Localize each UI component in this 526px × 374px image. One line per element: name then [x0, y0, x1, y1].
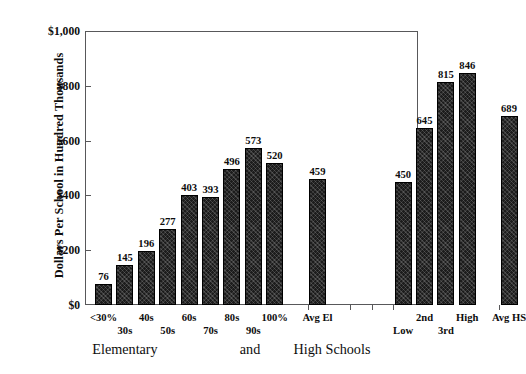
bar-value-label: 196	[138, 238, 154, 249]
y-tick-label: $800	[24, 79, 80, 92]
bar	[95, 284, 112, 305]
x-category-label: Avg El	[302, 312, 332, 323]
bar	[395, 182, 412, 305]
bar-value-label: 520	[267, 150, 283, 161]
x-tick-mark	[499, 305, 500, 310]
bar	[309, 179, 326, 305]
y-tick-mark	[85, 86, 91, 87]
bar-value-label: 450	[395, 169, 411, 180]
bar-value-label: 459	[310, 166, 326, 177]
x-tick-mark	[350, 305, 351, 310]
group-label-and: and	[240, 341, 261, 358]
bar	[138, 251, 155, 305]
x-tick-mark	[308, 305, 309, 310]
bar	[223, 169, 240, 305]
bar	[245, 148, 262, 305]
bar	[159, 229, 176, 305]
bar-value-label: 846	[459, 60, 475, 71]
bar	[459, 73, 476, 305]
y-tick-mark	[85, 141, 91, 142]
group-label-high-schools: High Schools	[294, 341, 371, 358]
x-category-label: High	[456, 312, 478, 323]
bar-value-label: 573	[245, 135, 261, 146]
y-tick-label: $400	[24, 189, 80, 202]
bar	[416, 128, 433, 305]
bar	[266, 163, 283, 305]
bar-value-label: 689	[501, 103, 517, 114]
x-category-label: 60s	[182, 312, 197, 323]
bar	[116, 265, 133, 305]
bar-value-label: 645	[417, 115, 433, 126]
x-category-label: 3rd	[438, 325, 454, 336]
bar-value-label: 76	[98, 271, 109, 282]
x-category-label: 70s	[203, 325, 218, 336]
group-label-elementary: Elementary	[92, 341, 157, 358]
y-tick-mark	[85, 250, 91, 251]
bar	[202, 197, 219, 305]
bar-value-label: 145	[117, 252, 133, 263]
y-axis-title: Dollars Per School in Hundred Thousands	[52, 21, 67, 311]
x-tick-mark	[372, 305, 373, 310]
x-category-label: 80s	[225, 312, 240, 323]
bar-value-label: 393	[203, 184, 219, 195]
bar-value-label: 815	[438, 69, 454, 80]
x-tick-mark	[393, 305, 394, 310]
bar-value-label: 496	[224, 156, 240, 167]
x-category-label: <30%	[90, 312, 117, 323]
y-tick-label: $600	[24, 134, 80, 147]
x-category-label: 50s	[160, 325, 175, 336]
y-tick-mark	[85, 195, 91, 196]
bar	[437, 82, 454, 305]
x-category-label: 40s	[139, 312, 154, 323]
bar	[181, 195, 198, 305]
bar-value-label: 403	[181, 182, 197, 193]
bar-value-label: 277	[160, 216, 176, 227]
x-category-label: Avg HS	[492, 312, 526, 323]
x-category-label: 100%	[261, 312, 287, 323]
x-category-label: 90s	[246, 325, 261, 336]
y-tick-label: $0	[24, 299, 80, 312]
y-tick-label: $1,000	[24, 25, 80, 38]
x-category-label: 30s	[118, 325, 133, 336]
x-category-label: 2nd	[416, 312, 433, 323]
y-tick-label: $200	[24, 244, 80, 257]
x-category-label: Low	[393, 325, 413, 336]
bar	[501, 116, 518, 305]
